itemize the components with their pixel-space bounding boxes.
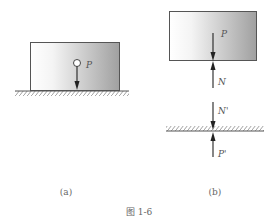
label-p-a: P <box>85 60 93 70</box>
block-a <box>31 43 120 91</box>
panel-b: P N N' P' <box>166 12 264 160</box>
panel-a-label: (a) <box>60 187 72 197</box>
label-n-prime: N' <box>217 106 228 116</box>
label-p-prime: P' <box>217 149 227 159</box>
normal-arrow-b <box>211 61 216 88</box>
label-p-b: P <box>220 29 228 39</box>
figure-caption: 图 1-6 <box>126 207 153 217</box>
figure-canvas: P P N N' P' (a) (b) 图 1-6 <box>0 0 274 222</box>
label-n: N <box>217 77 227 87</box>
normal-reaction-arrow <box>211 102 216 130</box>
panel-a: P <box>15 43 129 97</box>
panel-b-label: (b) <box>209 187 222 197</box>
weight-reaction-arrow <box>211 132 216 157</box>
ground-a <box>15 91 129 96</box>
ground-b <box>166 126 264 131</box>
